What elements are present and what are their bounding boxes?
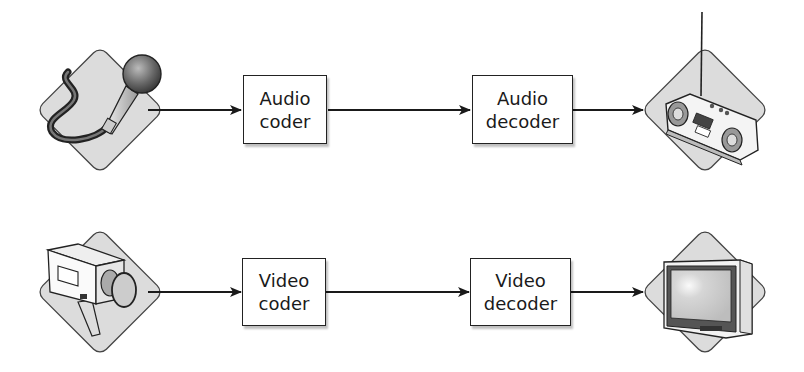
television-node [641,228,768,355]
audio-decoder-label-line2: decoder [486,110,559,133]
video-coder-label-line1: Video [259,269,309,292]
diagram-canvas [0,0,804,372]
audio-decoder-box: Audio decoder [472,75,573,144]
audio-coder-label-line2: coder [260,110,311,133]
video-coder-label-line2: coder [259,292,310,315]
video-decoder-box: Video decoder [470,258,571,326]
video-camera-node [36,228,163,355]
video-decoder-label-line1: Video [495,269,545,292]
microphone-node [36,46,163,173]
audio-decoder-label-line1: Audio [497,87,548,110]
audio-coder-box: Audio coder [243,75,327,144]
radio-node [641,12,768,174]
television-icon [664,260,752,338]
video-decoder-label-line2: decoder [484,292,557,315]
audio-coder-label-line1: Audio [259,87,310,110]
video-coder-box: Video coder [242,258,326,326]
